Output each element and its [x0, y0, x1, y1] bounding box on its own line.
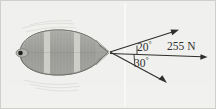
- bulkhead-band-2: [74, 28, 80, 78]
- bulkhead-band-1: [44, 28, 50, 78]
- angle-label-lower: 30°: [134, 58, 149, 70]
- angle-lower-degree-symbol: °: [146, 56, 149, 65]
- bow-bollard: [18, 51, 23, 56]
- angle-lower-value: 30: [134, 57, 146, 69]
- figure-canvas: [0, 0, 216, 109]
- angle-label-upper: 20°: [137, 42, 152, 54]
- physics-figure: 20° 30° 255 N: [0, 0, 216, 109]
- force-magnitude-label: 255 N: [167, 41, 195, 53]
- angle-upper-value: 20: [137, 41, 149, 53]
- deck-hold-middle: [50, 30, 74, 76]
- angle-upper-degree-symbol: °: [149, 40, 152, 49]
